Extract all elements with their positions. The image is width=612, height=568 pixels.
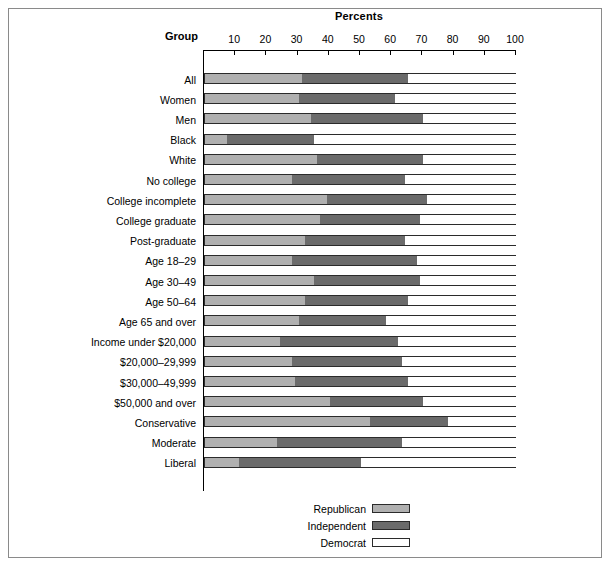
- stacked-bar: [204, 93, 516, 104]
- bar-segment-independent: [305, 236, 405, 245]
- category-label: College graduate: [46, 215, 196, 227]
- bar-segment-republican: [205, 276, 314, 285]
- legend-swatch: [372, 504, 410, 513]
- category-label: Women: [46, 94, 196, 106]
- stacked-bar: [204, 275, 516, 286]
- x-axis-tick-label: 30: [282, 33, 312, 45]
- bar-segment-republican: [205, 458, 239, 467]
- bar-segment-democrat: [408, 74, 517, 83]
- bar-segment-republican: [205, 337, 280, 346]
- stacked-bar: [204, 457, 516, 468]
- bar-segment-independent: [370, 417, 448, 426]
- bar-segment-independent: [280, 337, 399, 346]
- bar-segment-democrat: [408, 377, 517, 386]
- category-label: Age 50–64: [46, 296, 196, 308]
- x-axis-tick-label: 10: [219, 33, 249, 45]
- bar-segment-republican: [205, 236, 305, 245]
- legend-swatch: [372, 538, 410, 547]
- bar-segment-independent: [292, 357, 401, 366]
- bar-segment-republican: [205, 215, 320, 224]
- bar-segment-republican: [205, 114, 311, 123]
- bar-segment-democrat: [420, 276, 517, 285]
- bar-segment-democrat: [427, 195, 517, 204]
- bar-segment-independent: [299, 316, 386, 325]
- legend-item: Democrat: [250, 534, 410, 551]
- bar-segment-republican: [205, 175, 292, 184]
- bar-segment-democrat: [417, 256, 517, 265]
- bar-segment-republican: [205, 296, 305, 305]
- bar-segment-independent: [277, 438, 402, 447]
- stacked-bar: [204, 356, 516, 367]
- stacked-bar: [204, 154, 516, 165]
- category-label: No college: [46, 175, 196, 187]
- bar-segment-republican: [205, 135, 227, 144]
- stacked-bar: [204, 174, 516, 185]
- bar-segment-republican: [205, 74, 302, 83]
- stacked-bar: [204, 336, 516, 347]
- category-label: $20,000–29,999: [46, 356, 196, 368]
- stacked-bar: [204, 376, 516, 387]
- category-label: Income under $20,000: [46, 336, 196, 348]
- x-axis-tick-label: 80: [438, 33, 468, 45]
- bar-segment-independent: [295, 377, 407, 386]
- category-label: Post-graduate: [46, 235, 196, 247]
- bar-segment-independent: [305, 296, 408, 305]
- legend-label: Independent: [308, 520, 366, 532]
- bar-segment-democrat: [420, 215, 517, 224]
- stacked-bar: [204, 134, 516, 145]
- bar-segment-democrat: [448, 417, 517, 426]
- category-label: Moderate: [46, 437, 196, 449]
- chart-axis-title-group: Group: [98, 30, 198, 42]
- bar-segment-democrat: [398, 337, 517, 346]
- bar-segment-republican: [205, 316, 299, 325]
- bar-segment-democrat: [405, 175, 517, 184]
- x-axis-tick-label: 90: [469, 33, 499, 45]
- bar-segment-democrat: [402, 438, 517, 447]
- bar-segment-democrat: [423, 397, 517, 406]
- chart-axis-title-percents: Percents: [203, 10, 515, 22]
- bar-segment-republican: [205, 155, 317, 164]
- stacked-bar: [204, 214, 516, 225]
- bar-segment-independent: [227, 135, 314, 144]
- stacked-bar: [204, 437, 516, 448]
- bar-segment-republican: [205, 397, 330, 406]
- plot-area: [203, 50, 515, 491]
- bar-segment-democrat: [361, 458, 517, 467]
- bar-segment-democrat: [395, 94, 517, 103]
- bar-segment-independent: [292, 256, 417, 265]
- stacked-bar: [204, 396, 516, 407]
- category-label: All: [46, 74, 196, 86]
- bar-segment-independent: [314, 276, 420, 285]
- category-label: Conservative: [46, 417, 196, 429]
- bar-segment-independent: [330, 397, 424, 406]
- bar-segment-republican: [205, 438, 277, 447]
- bar-segment-republican: [205, 377, 295, 386]
- chart-legend: RepublicanIndependentDemocrat: [250, 500, 410, 551]
- stacked-bar: [204, 235, 516, 246]
- legend-swatch: [372, 521, 410, 530]
- stacked-bar: [204, 113, 516, 124]
- bar-segment-republican: [205, 256, 292, 265]
- x-axis-tick-label: 20: [250, 33, 280, 45]
- bar-segment-democrat: [408, 296, 517, 305]
- bar-segment-democrat: [405, 236, 517, 245]
- bar-segment-independent: [311, 114, 423, 123]
- category-label: Age 18–29: [46, 255, 196, 267]
- stacked-bar: [204, 315, 516, 326]
- bar-segment-independent: [317, 155, 423, 164]
- bar-segment-democrat: [386, 316, 517, 325]
- x-axis-tick-label: 40: [313, 33, 343, 45]
- legend-item: Republican: [250, 500, 410, 517]
- category-label: Age 65 and over: [46, 316, 196, 328]
- category-label: Men: [46, 114, 196, 126]
- bar-segment-independent: [299, 94, 396, 103]
- x-axis-tick-label: 50: [344, 33, 374, 45]
- x-axis-tick-label: 60: [375, 33, 405, 45]
- x-axis-tick-label: 100: [500, 33, 530, 45]
- legend-label: Democrat: [320, 537, 366, 549]
- legend-item: Independent: [250, 517, 410, 534]
- stacked-bar: [204, 416, 516, 427]
- bar-segment-republican: [205, 417, 370, 426]
- x-axis-tick-label: 70: [406, 33, 436, 45]
- bar-segment-independent: [302, 74, 408, 83]
